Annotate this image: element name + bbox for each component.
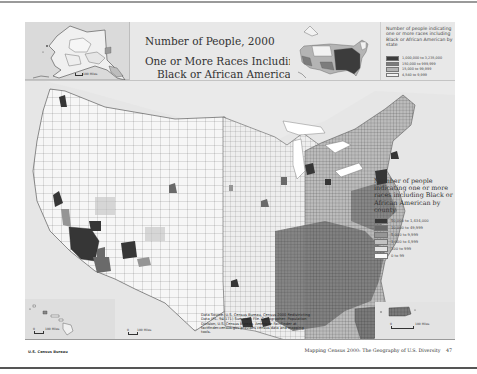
state-inset-map	[290, 22, 385, 80]
state-legend-row: 150,000 to 999,999	[386, 62, 436, 67]
hawaii-scale-bar	[34, 331, 44, 334]
legend-swatch	[374, 253, 388, 259]
title-block: Number of People, 2000 One or More Races…	[130, 22, 290, 80]
footer-publisher: U.S. Census Bureau	[28, 350, 68, 354]
state-legend-row: 4,540 to 9,999	[386, 73, 427, 78]
pr-scale-bar	[391, 326, 414, 329]
legend-label: 10,000 to 49,999	[391, 226, 423, 230]
legend-swatch	[386, 62, 399, 67]
legend-swatch	[374, 239, 388, 245]
pr-scale-label: 100 Miles	[415, 322, 429, 326]
puerto-rico-map	[375, 302, 455, 340]
county-legend: Number of people indicating one or more …	[374, 178, 454, 262]
state-legend-title: Number of people indicating one or more …	[386, 26, 454, 47]
footer-title: Mapping Census 2000: The Geography of U.…	[305, 348, 452, 353]
alaska-inset: 100 Miles	[25, 22, 130, 80]
legend-label: 1,000,000 to 3,235,000	[402, 56, 442, 60]
legend-swatch	[374, 246, 388, 252]
legend-label: 100 to 999	[391, 247, 411, 251]
alaska-map	[25, 22, 130, 80]
legend-swatch	[386, 67, 399, 72]
county-legend-row: 10,000 to 49,999	[374, 225, 423, 231]
mainland-scale-bar	[128, 332, 138, 335]
page-number: 47	[446, 348, 452, 353]
legend-label: 1,000 to 4,999	[391, 240, 418, 244]
legend-swatch	[374, 225, 388, 231]
county-legend-row: 5,000 to 9,999	[374, 232, 418, 238]
state-choropleth	[290, 22, 385, 80]
hawaii-inset: 0 100 Miles	[25, 299, 115, 339]
county-legend-row: 0 to 99	[374, 253, 404, 259]
alaska-scale-label: 100 Miles	[83, 72, 97, 76]
top-rule	[0, 1, 477, 3]
county-legend-row: 100 to 999	[374, 246, 411, 252]
county-legend-rows: 50,000 to 1,434,000 10,000 to 49,999 5,0…	[374, 218, 454, 262]
legend-label: 4,540 to 9,999	[402, 73, 427, 77]
legend-label: 0 to 99	[391, 254, 404, 258]
legend-swatch	[374, 232, 388, 238]
legend-label: 5,000 to 9,999	[391, 233, 418, 237]
county-legend-row: 50,000 to 1,434,000	[374, 218, 429, 224]
state-legend-row: 1,000,000 to 3,235,000	[386, 56, 442, 61]
state-legend: Number of people indicating one or more …	[380, 22, 455, 80]
legend-label: 15,000 to 99,999	[402, 67, 431, 71]
alaska-scale-bar	[75, 73, 83, 76]
legend-swatch	[386, 73, 399, 78]
bottom-rule	[0, 367, 477, 369]
source-note: Data Source: U.S. Census Bureau, Census …	[201, 313, 311, 334]
legend-swatch	[374, 218, 388, 224]
map-title: Number of People, 2000	[145, 35, 275, 47]
puerto-rico-inset: 0 100 Miles	[375, 302, 455, 340]
legend-label: 150,000 to 999,999	[402, 62, 436, 66]
state-legend-row: 15,000 to 99,999	[386, 67, 431, 72]
footer-book-title: Mapping Census 2000: The Geography of U.…	[305, 348, 441, 353]
hawaii-scale-label: 100 Miles	[45, 327, 59, 331]
map-subtitle-line1: One or More Races Including	[145, 55, 302, 68]
legend-label: 50,000 to 1,434,000	[391, 219, 429, 223]
county-legend-row: 1,000 to 4,999	[374, 239, 418, 245]
county-legend-title: Number of people indicating one or more …	[374, 178, 454, 214]
mainland-scale-label: 100 Miles	[137, 328, 151, 332]
map-frame: 100 Miles Number of People, 2000 One or …	[25, 22, 455, 340]
legend-swatch	[386, 56, 399, 61]
